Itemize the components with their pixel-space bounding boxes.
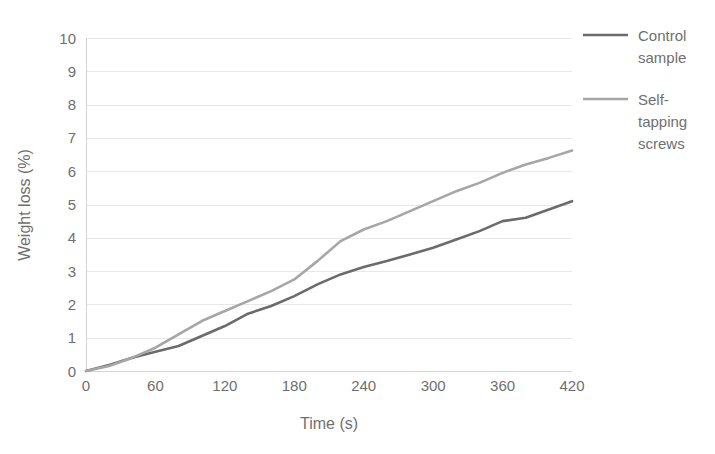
series-line-self-tapping [86, 151, 572, 371]
line-chart: 012345678910 060120180240300360420 Time … [0, 0, 715, 454]
y-tick-label: 5 [68, 196, 76, 213]
y-axis-title: Weight loss (%) [16, 149, 33, 261]
x-tick-label: 180 [282, 377, 307, 394]
y-tick-label: 2 [68, 296, 76, 313]
y-tick-label: 6 [68, 163, 76, 180]
x-tick-label: 360 [490, 377, 515, 394]
x-tick-label: 60 [147, 377, 164, 394]
x-axis-title: Time (s) [300, 415, 358, 432]
y-tick-label: 0 [68, 363, 76, 380]
y-tick-label: 7 [68, 129, 76, 146]
legend-label-control-line2: sample [638, 49, 686, 66]
y-tick-label: 8 [68, 96, 76, 113]
legend-label-self-tapping-line3: screws [638, 135, 685, 152]
x-tick-label: 420 [559, 377, 584, 394]
series-group [86, 151, 572, 371]
x-tick-label: 300 [421, 377, 446, 394]
legend-label-self-tapping-line2: tapping [638, 113, 687, 130]
legend-item-self-tapping[interactable]: Self- tapping screws [583, 91, 687, 152]
y-tick-label: 9 [68, 63, 76, 80]
y-tick-label: 4 [68, 229, 76, 246]
legend: Control sample Self- tapping screws [583, 27, 687, 152]
legend-label-self-tapping-line1: Self- [638, 91, 669, 108]
gridlines [86, 39, 572, 339]
x-axis-tick-labels: 060120180240300360420 [82, 377, 585, 394]
legend-item-control[interactable]: Control sample [583, 27, 686, 66]
y-axis-tick-labels: 012345678910 [59, 30, 76, 380]
x-tick-label: 0 [82, 377, 90, 394]
x-tick-label: 120 [212, 377, 237, 394]
chart-container: 012345678910 060120180240300360420 Time … [0, 0, 715, 454]
y-tick-label: 3 [68, 263, 76, 280]
x-tick-label: 240 [351, 377, 376, 394]
y-tick-label: 10 [59, 30, 76, 47]
y-tick-label: 1 [68, 329, 76, 346]
legend-label-control-line1: Control [638, 27, 686, 44]
